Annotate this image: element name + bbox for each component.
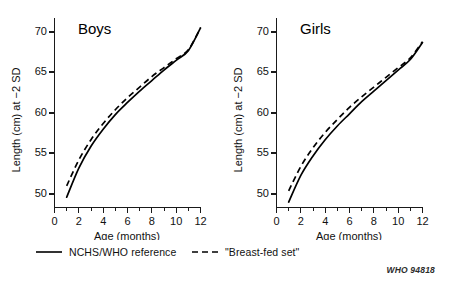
x-axis-title-boys: Age (months) bbox=[94, 230, 160, 240]
legend-swatch-solid-icon bbox=[36, 247, 62, 257]
x-tick-label: 0 bbox=[273, 215, 279, 227]
y-tick-label: 55 bbox=[35, 146, 47, 158]
source-code-label: WHO 94818 bbox=[386, 265, 435, 275]
y-tick-label: 65 bbox=[257, 65, 269, 77]
x-tick-label: 6 bbox=[346, 215, 352, 227]
x-tick-label: 12 bbox=[194, 215, 206, 227]
x-tick-label: 0 bbox=[51, 215, 57, 227]
y-tick-label: 50 bbox=[35, 187, 47, 199]
chart-svg-girls: Length (cm) at −2 SD 70 65 60 55 50 bbox=[222, 0, 449, 240]
series-line-nchs-who-reference-boys bbox=[67, 28, 201, 197]
x-tick-label: 4 bbox=[322, 215, 328, 227]
y-tick-label: 70 bbox=[257, 25, 269, 37]
chart-panel-boys: Length (cm) at −2 SD 70 65 60 55 50 bbox=[0, 0, 225, 240]
series-line-breast-fed-set-girls bbox=[289, 42, 423, 191]
x-tick-label: 4 bbox=[100, 215, 106, 227]
x-tick-label: 10 bbox=[392, 215, 404, 227]
y-tick-label: 60 bbox=[257, 106, 269, 118]
x-tick-label: 2 bbox=[298, 215, 304, 227]
panel-title-boys: Boys bbox=[78, 20, 111, 37]
y-tick-label: 50 bbox=[257, 187, 269, 199]
chart-svg-boys: Length (cm) at −2 SD 70 65 60 55 50 bbox=[0, 0, 225, 240]
y-tick-label: 55 bbox=[257, 146, 269, 158]
x-axis-title-girls: Age (months) bbox=[316, 230, 382, 240]
y-tick-label: 70 bbox=[35, 25, 47, 37]
x-tick-label: 6 bbox=[124, 215, 130, 227]
y-axis-title-girls: Length (cm) at −2 SD bbox=[232, 68, 244, 173]
legend-swatch-dashed-icon bbox=[192, 247, 218, 257]
chart-panel-girls: Length (cm) at −2 SD 70 65 60 55 50 bbox=[222, 0, 449, 240]
x-tick-label: 8 bbox=[371, 215, 377, 227]
series-line-nchs-who-reference-girls bbox=[289, 43, 423, 203]
figure-growth-charts: Length (cm) at −2 SD 70 65 60 55 50 bbox=[0, 0, 449, 286]
x-tick-label: 8 bbox=[149, 215, 155, 227]
y-tick-label: 60 bbox=[35, 106, 47, 118]
y-axis-title-boys: Length (cm) at −2 SD bbox=[10, 68, 22, 173]
legend-entry-nchs-who-reference: NCHS/WHO reference bbox=[36, 244, 176, 260]
series-line-breast-fed-set-boys bbox=[67, 28, 201, 186]
x-tick-label: 2 bbox=[76, 215, 82, 227]
panel-title-girls: Girls bbox=[300, 20, 331, 37]
x-tick-label: 10 bbox=[170, 215, 182, 227]
x-tick-label: 12 bbox=[416, 215, 428, 227]
y-tick-label: 65 bbox=[35, 65, 47, 77]
legend-entry-breast-fed-set: "Breast-fed set" bbox=[192, 244, 299, 260]
legend-label: "Breast-fed set" bbox=[225, 246, 299, 258]
figure-legend: NCHS/WHO reference "Breast-fed set" bbox=[0, 244, 449, 264]
legend-label: NCHS/WHO reference bbox=[69, 246, 176, 258]
